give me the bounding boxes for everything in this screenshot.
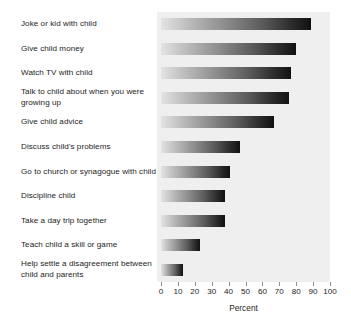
axis-tick (161, 282, 162, 286)
axis-tick-label: 0 (159, 287, 164, 296)
axis-tick (246, 282, 247, 286)
axis-tick (212, 282, 213, 286)
bar-row (161, 215, 225, 227)
x-axis: 0102030405060708090100 (157, 282, 330, 283)
bar-row (161, 92, 289, 104)
bar (161, 116, 274, 128)
category-label: Teach child a skill or game (21, 240, 157, 250)
category-label: Discipline child (21, 191, 157, 201)
bar (161, 67, 291, 79)
bar (161, 190, 225, 202)
bar-row (161, 166, 230, 178)
axis-tick (195, 282, 196, 286)
bar (161, 141, 240, 153)
bar-row (161, 116, 274, 128)
bar (161, 18, 311, 30)
plot-panel (157, 12, 330, 282)
category-label: Take a day trip together (21, 216, 157, 226)
bar-row (161, 239, 200, 251)
category-label: Joke or kid with child (21, 19, 157, 29)
category-label: Help settle a disagreement between child… (21, 259, 157, 280)
axis-tick (313, 282, 314, 286)
axis-tick (330, 282, 331, 286)
chart-screenshot: Joke or kid with childGive child moneyWa… (0, 0, 351, 329)
bar-row (161, 43, 296, 55)
bar-row (161, 67, 291, 79)
category-label: Watch TV with child (21, 68, 157, 78)
axis-tick-label: 80 (292, 287, 301, 296)
axis-tick-label: 60 (258, 287, 267, 296)
axis-tick-label: 30 (207, 287, 216, 296)
bar (161, 215, 225, 227)
axis-tick (279, 282, 280, 286)
bar-row (161, 18, 311, 30)
category-label-column: Joke or kid with childGive child moneyWa… (0, 0, 157, 282)
category-label: Give child advice (21, 117, 157, 127)
category-label: Go to church or synagogue with child (21, 167, 157, 177)
bar-row (161, 141, 240, 153)
axis-tick (178, 282, 179, 286)
bar (161, 43, 296, 55)
category-label: Give child money (21, 44, 157, 54)
axis-tick-label: 70 (275, 287, 284, 296)
bar (161, 239, 200, 251)
axis-tick-label: 100 (323, 287, 337, 296)
bar (161, 264, 183, 276)
category-label: Talk to child about when you were growin… (21, 87, 157, 108)
bar-row (161, 264, 183, 276)
category-label: Discuss child's problems (21, 142, 157, 152)
axis-tick-label: 90 (309, 287, 318, 296)
bar-row (161, 190, 225, 202)
bar (161, 92, 289, 104)
axis-tick-label: 10 (173, 287, 182, 296)
axis-tick (296, 282, 297, 286)
x-axis-title: Percent (157, 303, 330, 313)
bar (161, 166, 230, 178)
axis-tick (262, 282, 263, 286)
axis-tick-label: 40 (224, 287, 233, 296)
axis-tick-label: 50 (241, 287, 250, 296)
axis-tick (229, 282, 230, 286)
axis-tick-label: 20 (190, 287, 199, 296)
